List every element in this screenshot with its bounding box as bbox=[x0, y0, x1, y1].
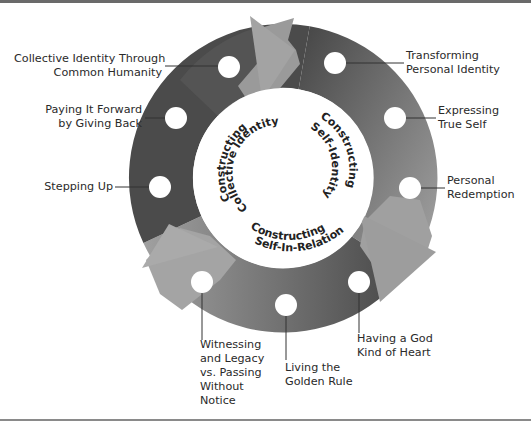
label-line: Common Humanity bbox=[14, 66, 162, 80]
label-transforming-personal-identity: Transforming Personal Identity bbox=[406, 49, 500, 77]
label-line: Having a God bbox=[357, 332, 433, 346]
node-witnessing bbox=[191, 271, 213, 293]
label-line: Kind of Heart bbox=[357, 346, 433, 360]
label-having-a-god-kind-of-heart: Having a God Kind of Heart bbox=[357, 332, 433, 360]
node-collective-identity bbox=[218, 56, 240, 78]
label-line: Stepping Up bbox=[20, 180, 113, 194]
label-line: Living the bbox=[285, 361, 353, 375]
label-line: Witnessing bbox=[200, 338, 264, 352]
node-expressing bbox=[384, 107, 406, 129]
label-line: and Legacy bbox=[200, 352, 264, 366]
label-witnessing-and-legacy: Witnessing and Legacy vs. Passing Withou… bbox=[200, 338, 264, 408]
label-living-the-golden-rule: Living the Golden Rule bbox=[285, 361, 353, 389]
label-collective-identity: Collective Identity Through Common Human… bbox=[14, 52, 162, 80]
label-line: Without bbox=[200, 380, 264, 394]
label-expressing-true-self: Expressing True Self bbox=[438, 104, 499, 132]
label-stepping-up: Stepping Up bbox=[20, 180, 113, 194]
label-line: Collective Identity Through bbox=[14, 52, 162, 66]
label-line: Golden Rule bbox=[285, 375, 353, 389]
bottom-border bbox=[0, 419, 531, 421]
label-personal-redemption: Personal Redemption bbox=[447, 174, 515, 202]
label-line: Expressing bbox=[438, 104, 499, 118]
label-line: Redemption bbox=[447, 188, 515, 202]
label-line: Personal bbox=[447, 174, 515, 188]
label-line: Transforming bbox=[406, 49, 500, 63]
label-paying-it-forward: Paying It Forward by Giving Back bbox=[30, 103, 142, 131]
label-line: Paying It Forward bbox=[30, 103, 142, 117]
label-line: Personal Identity bbox=[406, 63, 500, 77]
label-line: True Self bbox=[438, 118, 499, 132]
node-transforming bbox=[324, 52, 346, 74]
label-line: vs. Passing bbox=[200, 366, 264, 380]
node-god-heart bbox=[348, 271, 370, 293]
node-paying-it-forward bbox=[165, 107, 187, 129]
node-golden-rule bbox=[275, 294, 297, 316]
node-stepping-up bbox=[149, 176, 171, 198]
label-line: Notice bbox=[200, 394, 264, 408]
node-redemption bbox=[399, 177, 421, 199]
label-line: by Giving Back bbox=[30, 117, 142, 131]
